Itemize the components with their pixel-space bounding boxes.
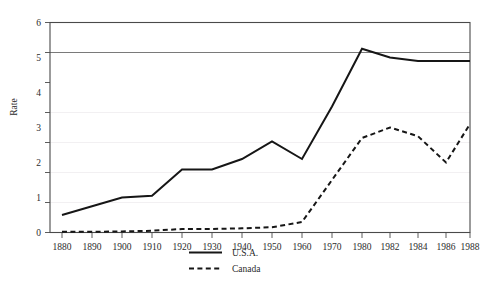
x-label-1950: 1950 — [263, 242, 282, 252]
legend-label-usa: U.S.A. — [232, 248, 258, 258]
y-label-3: 3 — [36, 123, 41, 133]
x-label-1986: 1986 — [437, 242, 456, 252]
y-label-5: 5 — [36, 53, 41, 63]
x-label-1930: 1930 — [203, 242, 222, 252]
y-label-1: 1 — [36, 193, 41, 203]
line-chart: 0 1 2 3 4 5 6 Rate — [0, 0, 489, 281]
y-label-2: 2 — [36, 158, 41, 168]
x-label-1982: 1982 — [381, 242, 400, 252]
y-label-6: 6 — [36, 18, 41, 28]
y-label-0: 0 — [36, 228, 41, 238]
x-label-1984: 1984 — [409, 242, 428, 252]
x-label-1920: 1920 — [173, 242, 192, 252]
x-label-1960: 1960 — [293, 242, 312, 252]
chart-background — [0, 0, 489, 281]
x-label-1988: 1988 — [461, 242, 480, 252]
chart-figure: 0 1 2 3 4 5 6 Rate — [0, 0, 489, 281]
x-tick-labels: 1880 1890 1900 1910 1920 1930 1940 1950 … — [53, 242, 480, 252]
y-label-4: 4 — [36, 88, 41, 98]
y-axis-title: Rate — [9, 98, 19, 115]
x-label-1970: 1970 — [323, 242, 342, 252]
x-label-1900: 1900 — [113, 242, 132, 252]
x-label-1890: 1890 — [83, 242, 102, 252]
x-label-1910: 1910 — [143, 242, 162, 252]
x-label-1880: 1880 — [53, 242, 72, 252]
x-label-1980: 1980 — [353, 242, 372, 252]
legend-label-canada: Canada — [232, 264, 261, 274]
